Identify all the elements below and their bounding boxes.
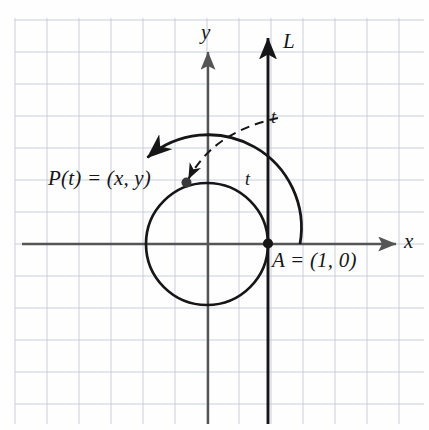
figure-container: P(t) = (x, y), [0, 0, 429, 430]
y-axis-label: y [201, 22, 210, 43]
unit-circle-diagram-svg [0, 0, 429, 430]
point-P-marker [182, 178, 192, 188]
x-axis-label: x [404, 231, 413, 252]
arc-length-label-lower: t [245, 170, 250, 188]
point-P-label: P(t) = (x, y) [48, 168, 151, 189]
line-L-label: L [283, 31, 295, 52]
arc-length-label-upper: t [271, 108, 276, 126]
paper-background [0, 0, 429, 430]
point-A-label: A = (1, 0) [272, 250, 357, 271]
